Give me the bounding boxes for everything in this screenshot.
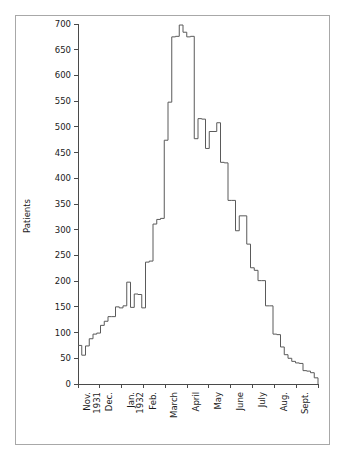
x-tick-label-line: Sept. xyxy=(300,392,310,414)
x-tick-label: July xyxy=(257,392,267,408)
figure-frame: 0501001502002503003504004505005506006507… xyxy=(15,15,330,445)
x-tick-label-line: Nov. xyxy=(82,392,92,411)
x-tick-label-line: March xyxy=(169,392,179,418)
x-tick-label-line: May xyxy=(213,392,223,410)
y-tick-label: 700 xyxy=(55,19,71,29)
y-tick-label: 500 xyxy=(55,122,71,132)
y-axis-title: Patients xyxy=(22,198,32,233)
x-tick-label-line: April xyxy=(191,392,201,411)
x-axis-labels: Nov.1931Dec.Jan.1932Feb.MarchAprilMayJun… xyxy=(82,392,310,418)
x-tick-label-line: Aug. xyxy=(279,392,289,411)
x-tick-label-line: Jan. xyxy=(126,392,136,409)
y-tick-label: 300 xyxy=(55,225,71,235)
x-tick-label: Jan.1932 xyxy=(126,392,146,414)
x-tick-label: Feb. xyxy=(148,392,158,410)
y-tick-label: 350 xyxy=(55,199,71,209)
patients-step-curve xyxy=(78,25,318,384)
x-tick-label: April xyxy=(191,392,201,411)
y-tick-label: 100 xyxy=(55,328,71,338)
x-tick-label-line: Feb. xyxy=(148,392,158,410)
y-tick-label: 400 xyxy=(55,173,71,183)
x-tick-label-line: 1932 xyxy=(135,392,145,414)
y-tick-label: 150 xyxy=(55,302,71,312)
x-tick-label: Dec. xyxy=(104,392,114,411)
y-tick-label: 200 xyxy=(55,276,71,286)
y-tick-label: 250 xyxy=(55,250,71,260)
x-tick-label-line: 1931 xyxy=(92,392,102,414)
x-tick-label: Sept. xyxy=(300,392,310,414)
y-tick-label: 550 xyxy=(55,96,71,106)
x-tick-label: March xyxy=(169,392,179,418)
x-tick-label-line: June xyxy=(235,392,245,412)
y-tick-label: 450 xyxy=(55,148,71,158)
epidemic-curve-chart: 0501001502002503003504004505005506006507… xyxy=(16,16,329,444)
y-tick-label: 600 xyxy=(55,70,71,80)
x-tick-label-line: July xyxy=(257,392,267,408)
x-tick-label-line: Dec. xyxy=(104,392,114,411)
x-tick-label: May xyxy=(213,392,223,410)
y-tick-label: 0 xyxy=(66,379,71,389)
x-tick-label: June xyxy=(235,392,245,412)
y-tick-label: 650 xyxy=(55,45,71,55)
y-tick-group: 0501001502002503003504004505005506006507… xyxy=(55,19,78,389)
x-tick-label: Aug. xyxy=(279,392,289,411)
x-tick-group xyxy=(78,384,318,388)
y-tick-label: 50 xyxy=(60,353,71,363)
x-tick-label: Nov.1931 xyxy=(82,392,102,414)
